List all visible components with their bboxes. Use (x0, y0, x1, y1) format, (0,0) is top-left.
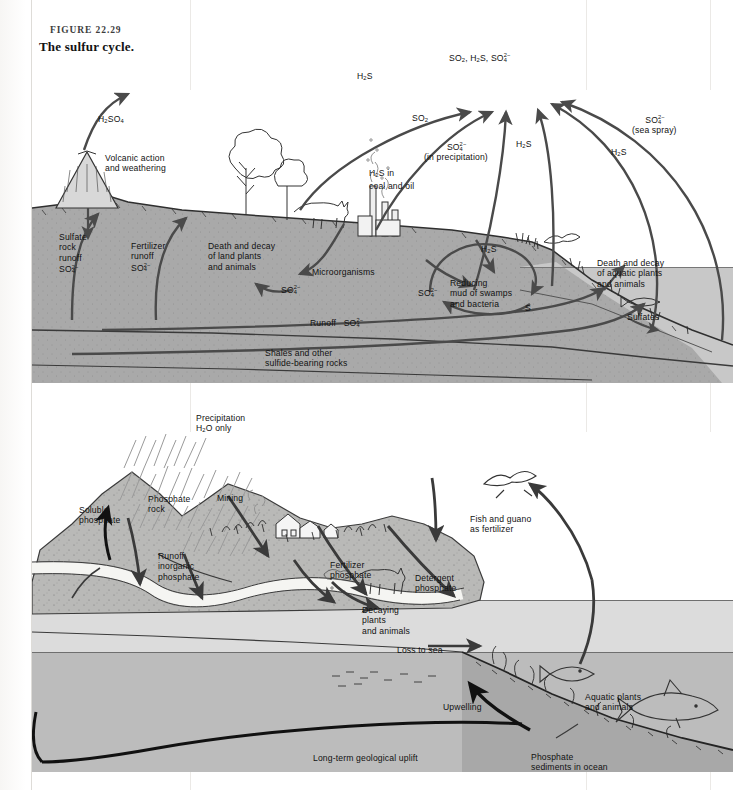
label-detergent-phosphate: Detergent phosphate (415, 573, 457, 594)
label-loss-to-sea: Loss to sea (397, 645, 443, 655)
sulfur-cycle-panel (32, 90, 733, 383)
label-soluble-phosphate: Soluble phosphate (79, 505, 121, 526)
label-h2s-mid: H2S (516, 139, 532, 152)
label-sulfur-elemental: S (525, 303, 531, 313)
label-decaying-plants: Decaying plants and animals (362, 605, 410, 636)
figure-number: FIGURE 22.29 (50, 25, 122, 35)
label-sulfates: Sulfates (627, 312, 659, 322)
label-h2so4: H2SO4 (98, 114, 124, 127)
figure-title: The sulfur cycle. (39, 39, 134, 55)
label-runoff-inorganic: Runoff inorganic phosphate (158, 551, 200, 582)
label-so4-sea-spray: SO2−4 (sea spray) (632, 114, 677, 135)
label-death-decay-aquatic: Death and decay of aquatic plants and an… (597, 258, 664, 289)
label-phosphate-rock: Phosphate rock (148, 494, 190, 515)
label-volcanic-action: Volcanic action and weathering (105, 153, 166, 174)
label-sulfate-rock-runoff: Sulfate rock runoff SO2−4 (59, 232, 87, 274)
label-precipitation: Precipitation H2O only (196, 413, 245, 436)
label-so4-reducing: SO2−4 (418, 287, 436, 298)
label-h2s-left: H2S (357, 71, 373, 84)
label-reducing-mud: Reducing mud of swamps and bacteria (450, 278, 512, 309)
label-fish-guano: Fish and guano as fertilizer (470, 514, 531, 535)
label-fertilizer-runoff: Fertilizer runoff SO2−4 (131, 241, 165, 273)
label-h2s-right: H2S (611, 147, 627, 160)
label-long-term-uplift: Long-term geological uplift (313, 753, 418, 763)
label-h2s-shore: H2S (481, 244, 497, 257)
label-runoff-so4: Runoff SO2−4 (310, 317, 362, 328)
label-upwelling: Upwelling (443, 702, 482, 712)
label-so2: SO2 (412, 113, 428, 126)
label-so4-precipitation: SO2−4 (in precipitation) (424, 141, 488, 162)
phosphorus-cycle-panel (32, 432, 733, 772)
label-mining: Mining (217, 493, 243, 503)
label-death-decay-land: Death and decay of land plants and anima… (208, 241, 275, 272)
label-h2s-coal-oil: H2S in coal and oil (369, 168, 414, 191)
label-shales: Shales and other sulfide-bearing rocks (265, 348, 347, 369)
label-aquatic-plants: Aquatic plants and animals (585, 692, 641, 713)
label-so4-microorganisms: SO2−4 (281, 284, 299, 295)
thermocline-line (32, 652, 733, 653)
label-atmosphere-pool: SO2, H2S, SO2−4 (449, 52, 509, 65)
label-phosphate-sediments: Phosphate sediments in ocean (531, 752, 608, 773)
label-fertilizer-phosphate: Fertilizer phosphate (330, 560, 372, 581)
label-microorganisms: Microorganisms (312, 267, 375, 277)
